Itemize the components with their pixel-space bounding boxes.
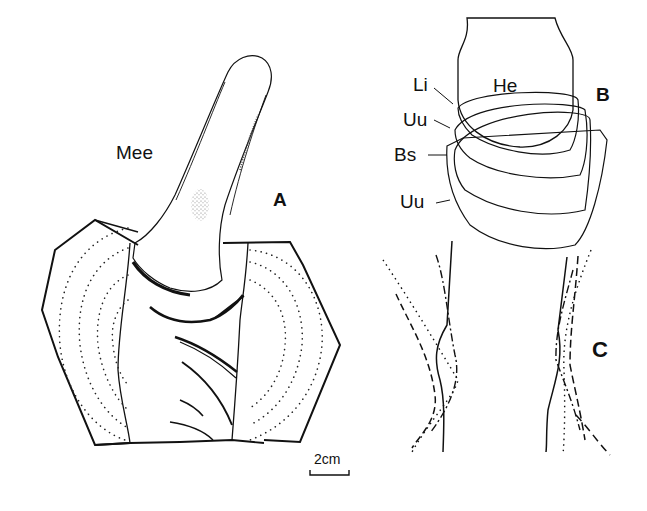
mee-stem: [133, 56, 271, 292]
mee-label: Mee: [116, 143, 153, 162]
bs-label: Bs: [394, 145, 416, 164]
panel-c-drawing: [383, 241, 610, 455]
bs-band: [454, 112, 590, 214]
he-label: He: [493, 76, 517, 95]
panel-c-label: C: [592, 339, 608, 361]
illustration-canvas: [0, 0, 647, 511]
panel-a-drawing: [42, 56, 340, 445]
right-growth-rings: [250, 250, 322, 440]
uu-lower-label: Uu: [400, 192, 424, 211]
panel-a-label: A: [273, 190, 287, 209]
li-band: [458, 92, 579, 154]
scientific-illustration: Mee A He Li Uu Bs Uu B C 2cm: [0, 0, 647, 511]
left-growth-rings: [59, 228, 128, 440]
lower-uu-band: [447, 130, 607, 249]
scale-bar: [310, 470, 349, 475]
li-label: Li: [413, 75, 428, 94]
uu-upper-label: Uu: [403, 110, 427, 129]
scale-bar-label: 2cm: [314, 452, 340, 466]
panel-b-label: B: [596, 85, 610, 104]
panel-b-drawing: [428, 18, 607, 249]
